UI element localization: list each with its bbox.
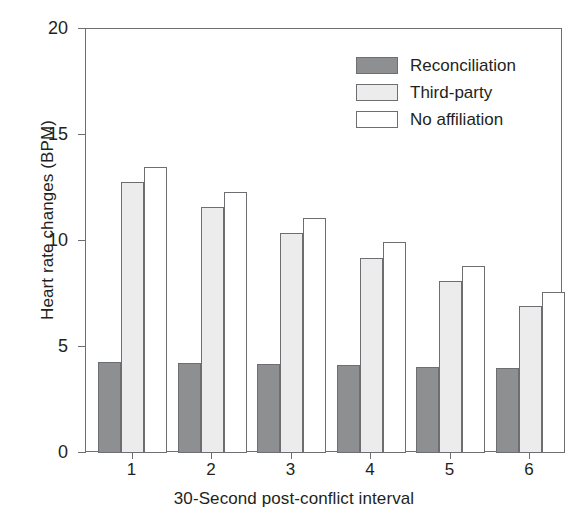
bar [360,258,383,453]
bar [383,242,406,453]
legend-item: Reconciliation [356,52,556,79]
x-axis-title: 30-Second post-conflict interval [0,489,588,509]
bar [121,182,144,453]
x-axis-tick [370,452,371,459]
legend-swatch [356,84,398,101]
x-axis-tick-label: 2 [191,461,231,478]
bar [280,233,303,453]
bar [542,292,565,453]
y-axis-tick-label: 10 [8,231,68,249]
legend-label: Third-party [410,83,492,103]
y-axis-tick-label: 15 [8,125,68,143]
legend-item: No affiliation [356,106,556,133]
x-axis-tick-label: 5 [430,461,470,478]
bar [98,362,121,453]
y-axis-tick [78,452,86,453]
bar [439,281,462,453]
bar [462,266,485,453]
bar-chart-figure: Heart rate changes (BPM) 05101520 123456… [0,0,588,524]
bar [303,218,326,453]
legend: ReconciliationThird-partyNo affiliation [356,52,556,133]
bar [224,192,247,453]
legend-label: Reconciliation [410,56,516,76]
x-axis-tick-label: 6 [509,461,549,478]
x-axis-tick-label: 1 [112,461,152,478]
legend-item: Third-party [356,79,556,106]
legend-swatch [356,111,398,128]
x-axis-tick-label: 4 [350,461,390,478]
bar [496,368,519,453]
y-axis-tick-label: 0 [8,443,68,461]
x-axis-tick [291,452,292,459]
x-axis-tick [132,452,133,459]
bar [178,363,201,453]
x-axis-tick [211,452,212,459]
bar [201,207,224,453]
x-axis-tick [450,452,451,459]
y-axis-title: Heart rate changes (BPM) [38,70,58,370]
bar [416,367,439,453]
bar [144,167,167,453]
x-axis-tick [529,452,530,459]
bar [337,365,360,453]
y-axis-tick-label: 5 [8,337,68,355]
legend-label: No affiliation [410,110,503,130]
legend-swatch [356,57,398,74]
x-axis-tick-label: 3 [271,461,311,478]
bar [257,364,280,453]
y-axis-tick-label: 20 [8,19,68,37]
bar [519,306,542,453]
